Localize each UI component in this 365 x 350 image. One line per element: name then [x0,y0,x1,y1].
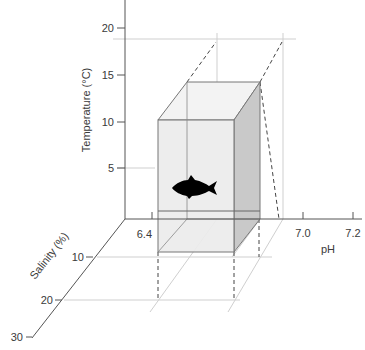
niche-diagram: 20 15 10 5 Temperature (°C) 6.4 7.0 7.2 … [0,0,365,350]
temp-tick-5: 5 [108,162,114,174]
salinity-tick-10: 10 [72,251,84,263]
temp-tick-10: 10 [102,116,114,128]
ph-tick-6-4: 6.4 [137,228,152,240]
temp-tick-20: 20 [102,22,114,34]
temp-tick-15: 15 [102,69,114,81]
salinity-tick-30: 30 [11,331,23,343]
ph-tick-7-0: 7.0 [295,227,310,239]
salinity-axis [26,219,125,338]
temperature-axis [117,0,125,219]
ph-tick-7-2: 7.2 [345,227,360,239]
temperature-axis-title: Temperature (°C) [80,68,92,152]
niche-box [158,82,260,252]
salinity-tick-20: 20 [41,294,53,306]
salinity-axis-title: Salinity (%) [27,230,71,281]
ph-axis-title: pH [321,243,335,255]
